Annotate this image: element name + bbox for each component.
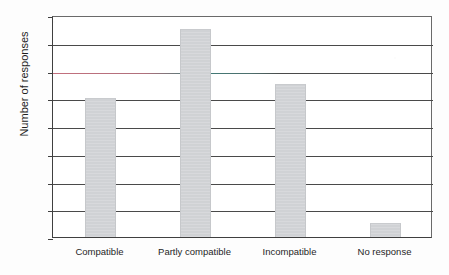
bar-partly-compatible	[180, 29, 211, 237]
y-tick-mark-2	[48, 211, 53, 212]
gridline-14	[53, 45, 433, 46]
y-tick-mark-14	[48, 45, 53, 46]
y-tick-mark-8	[48, 128, 53, 129]
y-tick-mark-16	[48, 17, 53, 18]
y-tick-mark-12	[48, 73, 53, 74]
gridline-12	[53, 73, 433, 74]
plot-area	[52, 16, 432, 238]
bar-no-response	[370, 223, 401, 237]
bar-incompatible	[275, 84, 306, 237]
y-axis-title: Number of responses	[18, 14, 30, 154]
bar-chart-figure: Number of responses 0246810121416 Compat…	[0, 0, 449, 275]
y-tick-mark-4	[48, 184, 53, 185]
x-tick-label: No response	[325, 246, 445, 257]
y-tick-mark-6	[48, 156, 53, 157]
cropped-title-remnant	[46, 0, 276, 5]
bar-compatible	[85, 98, 116, 237]
y-tick-mark-10	[48, 100, 53, 101]
y-tick-mark-0	[48, 239, 53, 240]
